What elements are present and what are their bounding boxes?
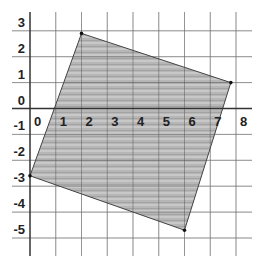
y-tick-label: 2 <box>18 41 25 56</box>
y-tick-label: -3 <box>13 170 25 185</box>
x-tick-labels: 012345678 <box>34 114 247 129</box>
y-tick-label: 0 <box>18 93 25 108</box>
vertex-left-dot <box>28 174 32 178</box>
y-tick-label: -5 <box>13 222 25 237</box>
y-tick-label: -4 <box>13 196 25 211</box>
x-tick-label: 4 <box>137 114 145 129</box>
vertex-right-dot <box>229 81 233 85</box>
x-tick-label: 2 <box>86 114 93 129</box>
x-tick-label: 0 <box>34 114 41 129</box>
y-tick-label: -1 <box>13 118 25 133</box>
y-tick-label: 1 <box>18 67 25 82</box>
grid-lines-over <box>12 12 252 256</box>
x-tick-label: 7 <box>214 114 221 129</box>
x-tick-label: 5 <box>163 114 170 129</box>
coordinate-grid-figure: 012345678 3210-1-2-3-4-5 <box>0 0 268 268</box>
x-tick-label: 6 <box>189 114 196 129</box>
x-tick-label: 3 <box>111 114 118 129</box>
vertex-bottom-dot <box>183 228 187 232</box>
y-tick-labels: 3210-1-2-3-4-5 <box>13 15 25 237</box>
shaded-quadrilateral <box>30 33 231 230</box>
vertex-top-dot <box>80 32 84 36</box>
x-tick-label: 1 <box>60 114 67 129</box>
y-tick-label: -2 <box>13 144 25 159</box>
x-tick-label: 8 <box>240 114 247 129</box>
y-tick-label: 3 <box>18 15 25 30</box>
